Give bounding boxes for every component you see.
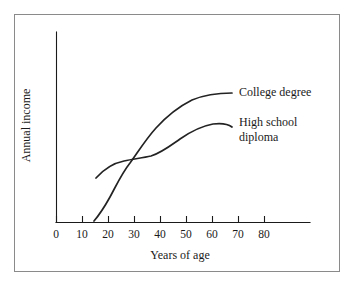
x-tick-label-20: 20 [94,228,122,240]
x-tick-label-30: 30 [120,228,148,240]
series-line-college-degree [94,93,232,221]
y-axis-title: Annual income [19,74,34,178]
chart-figure: 0 10 20 30 40 50 60 70 80 Years of age A… [0,0,355,287]
x-tick-label-40: 40 [146,228,174,240]
series-line-high-school-diploma [96,124,232,178]
x-tick-label-70: 70 [224,228,252,240]
series-label-college-degree: College degree [239,85,311,100]
plot-area [0,0,355,287]
x-tick-label-10: 10 [68,228,96,240]
x-tick-label-50: 50 [172,228,200,240]
x-axis-title: Years of age [110,248,250,263]
x-tick-label-80: 80 [250,228,278,240]
x-tick-label-0: 0 [42,228,70,240]
x-tick-label-60: 60 [198,228,226,240]
series-label-high-school-diploma: High school diploma [239,115,297,144]
